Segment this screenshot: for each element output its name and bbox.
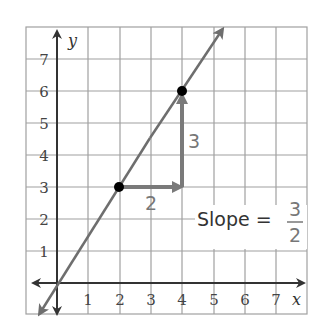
grid bbox=[26, 27, 307, 314]
y-tick-3: 3 bbox=[39, 179, 49, 197]
y-tick-6: 6 bbox=[39, 83, 49, 101]
x-tick-7: 7 bbox=[271, 291, 281, 309]
x-axis-label: x bbox=[292, 290, 301, 309]
slope-annotation: Slope = 3 2 bbox=[195, 198, 307, 249]
run-label: 2 bbox=[145, 192, 157, 214]
rise-label: 3 bbox=[188, 130, 200, 152]
y-tick-1: 1 bbox=[39, 243, 49, 261]
y-tick-7: 7 bbox=[39, 51, 49, 69]
point-2-3 bbox=[114, 182, 124, 192]
x-tick-6: 6 bbox=[240, 291, 250, 309]
x-tick-4: 4 bbox=[177, 291, 187, 309]
y-tick-5: 5 bbox=[39, 115, 49, 133]
y-tick-2: 2 bbox=[39, 211, 49, 229]
slope-text: Slope = bbox=[197, 208, 272, 230]
x-tick-3: 3 bbox=[146, 291, 156, 309]
x-tick-1: 1 bbox=[83, 291, 93, 309]
y-axis-label: y bbox=[67, 31, 78, 50]
coordinate-graph: 1 2 3 4 5 6 7 1 2 3 4 5 6 7 x y 2 3 Slop… bbox=[0, 0, 328, 333]
x-tick-5: 5 bbox=[209, 291, 219, 309]
graphed-line bbox=[40, 30, 222, 313]
x-tick-labels: 1 2 3 4 5 6 7 bbox=[83, 291, 281, 309]
x-tick-2: 2 bbox=[115, 291, 125, 309]
slope-numerator: 3 bbox=[289, 198, 301, 220]
point-4-6 bbox=[177, 86, 187, 96]
y-tick-4: 4 bbox=[39, 147, 49, 165]
y-tick-labels: 1 2 3 4 5 6 7 bbox=[39, 51, 49, 261]
slope-denominator: 2 bbox=[289, 224, 301, 246]
